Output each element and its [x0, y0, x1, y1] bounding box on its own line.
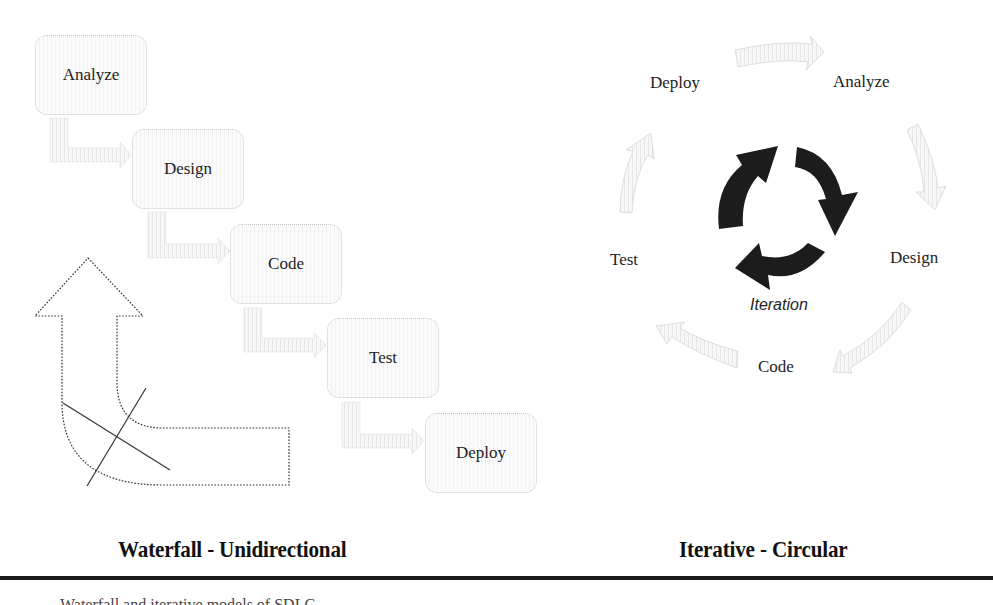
cycle-arrows-icon	[718, 146, 858, 290]
cycle-step-test: Test	[610, 250, 638, 270]
waterfall-step-deploy: Deploy	[425, 413, 537, 493]
waterfall-step-code: Code	[230, 224, 342, 304]
step-label: Design	[164, 159, 212, 179]
curved-arrow-icon	[907, 124, 946, 210]
step-label: Analyze	[63, 65, 120, 85]
step-down-arrow-icon	[342, 402, 424, 454]
section-divider	[0, 576, 993, 580]
step-down-arrow-icon	[148, 212, 230, 264]
step-down-arrow-icon	[244, 308, 326, 358]
curved-arrow-icon	[656, 322, 738, 368]
curved-arrow-icon	[620, 133, 654, 213]
curved-arrow-icon	[833, 302, 911, 373]
step-label: Code	[268, 254, 304, 274]
cycle-step-deploy: Deploy	[650, 73, 700, 93]
waterfall-step-design: Design	[132, 129, 244, 209]
iterative-caption: Iterative - Circular	[679, 536, 848, 563]
step-label: Test	[369, 348, 397, 368]
waterfall-step-analyze: Analyze	[35, 35, 147, 115]
cycle-step-code: Code	[758, 357, 794, 377]
step-label: Deploy	[456, 443, 506, 463]
curved-arrow-icon	[735, 36, 824, 70]
waterfall-caption: Waterfall - Unidirectional	[118, 536, 346, 563]
cycle-step-design: Design	[890, 248, 938, 268]
figure-caption-cutoff: Waterfall and iterative models of SDLC	[60, 596, 315, 605]
cycle-step-analyze: Analyze	[833, 72, 890, 92]
waterfall-step-test: Test	[327, 318, 439, 398]
step-down-arrow-icon	[50, 118, 132, 168]
iteration-label: Iteration	[750, 296, 808, 314]
